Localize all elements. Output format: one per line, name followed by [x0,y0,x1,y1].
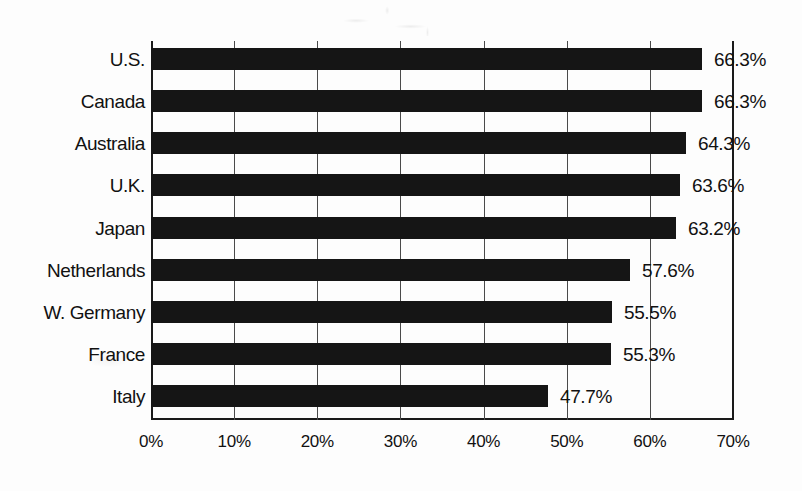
bar-value-label: 66.3% [714,92,766,111]
bar[interactable] [151,301,612,323]
category-label: U.K. [110,176,145,195]
bar-value-label: 55.3% [623,345,675,364]
x-tick-label: 50% [550,432,583,452]
category-label: Netherlands [47,261,145,280]
bar-row: Australia64.3% [0,132,802,154]
bar-value-label: 66.3% [714,50,766,69]
bar-row: Canada66.3% [0,90,802,112]
x-tick-label: 70% [716,432,749,452]
bar-value-label: 47.7% [560,387,612,406]
horizontal-bar-chart: 0%10%20%30%40%50%60%70% U.S.66.3%Canada6… [0,0,802,491]
category-label: Canada [81,92,145,111]
bar[interactable] [151,132,686,154]
bar-row: France55.3% [0,343,802,365]
bar-row: U.S.66.3% [0,48,802,70]
category-label: France [88,345,145,364]
bar[interactable] [151,259,630,281]
x-tick-label: 60% [633,432,666,452]
category-label: Italy [112,387,145,406]
bar[interactable] [151,385,548,407]
bar-value-label: 63.6% [692,176,744,195]
x-tick-label: 0% [139,432,163,452]
bar[interactable] [151,343,611,365]
category-label: Australia [75,134,145,153]
category-label: Japan [95,219,145,238]
x-tick-label: 30% [384,432,417,452]
bar-row: W. Germany55.5% [0,301,802,323]
bar-row: Netherlands57.6% [0,259,802,281]
x-tick-label: 20% [301,432,334,452]
bar-value-label: 55.5% [624,303,676,322]
bar-row: Italy47.7% [0,385,802,407]
category-label: U.S. [110,50,145,69]
bar[interactable] [151,90,702,112]
bar-row: U.K.63.6% [0,174,802,196]
x-tick-label: 40% [467,432,500,452]
chart-page: 0%10%20%30%40%50%60%70% U.S.66.3%Canada6… [0,0,802,491]
bar[interactable] [151,217,676,239]
bar-value-label: 63.2% [688,219,740,238]
bar[interactable] [151,174,680,196]
category-label: W. Germany [43,303,145,322]
bar-value-label: 57.6% [642,261,694,280]
bar-row: Japan63.2% [0,217,802,239]
bar[interactable] [151,48,702,70]
x-tick-label: 10% [218,432,251,452]
bar-value-label: 64.3% [698,134,750,153]
